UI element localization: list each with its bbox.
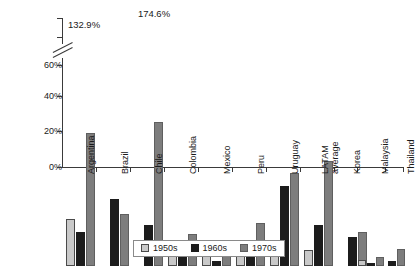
y-axis-line: [62, 18, 63, 168]
y-tick-label: 40%: [10, 92, 62, 101]
y-tick-label: 0%: [10, 163, 62, 172]
legend-swatch-icon-1950s: [141, 244, 149, 252]
legend-label-1960s: 1960s: [203, 243, 228, 253]
y-tick-label: 20%: [10, 127, 62, 136]
x-label-argentina: Argentina: [86, 118, 96, 174]
x-label-latam-average: LATAM average: [320, 118, 340, 174]
bar-argentina-1960s: [76, 232, 85, 266]
bar-korea-1960s: [348, 237, 357, 266]
x-label-korea: Korea: [352, 118, 362, 174]
x-label-uruguay: Uruguay: [290, 118, 300, 174]
bar-argentina-1950s: [66, 219, 75, 266]
bar-uruguay-1970s: [290, 173, 299, 266]
bar-thailand-1960s: [388, 261, 396, 266]
x-label-peru: Peru: [256, 118, 266, 174]
annotation-argentina-1970s: 132.9%: [56, 20, 112, 30]
bar-latam-average-1950s: [304, 250, 313, 266]
legend-swatch-icon-1960s: [191, 244, 199, 252]
bar-latam-average-1960s: [314, 225, 323, 266]
x-label-malaysia: Malaysia: [380, 118, 390, 174]
bar-mexico-1960s: [212, 261, 221, 266]
bar-malaysia-1970s: [376, 257, 384, 266]
x-label-chile: Chile: [154, 118, 164, 174]
legend-label-1970s: 1970s: [252, 243, 277, 253]
legend-label-1950s: 1950s: [153, 243, 178, 253]
bar-brazil-1960s: [110, 199, 119, 266]
y-tick-label: 60%: [10, 61, 62, 70]
x-label-mexico: Mexico: [222, 118, 232, 174]
x-label-brazil: Brazil: [120, 118, 130, 174]
x-label-colombia: Colombia: [188, 118, 198, 174]
bar-latam-average-1970s: [324, 161, 333, 266]
legend-swatch-icon-1970s: [240, 244, 248, 252]
bar-chart: 60% 40% 20% 0% 132.9%: [0, 0, 420, 266]
axis-break-icon: [53, 40, 73, 56]
bar-thailand-1970s: [397, 249, 405, 266]
bar-malaysia-1950s: [358, 260, 366, 266]
legend-item-1970s: 1970s: [240, 243, 277, 253]
bar-brazil-1970s: [120, 214, 129, 266]
legend-item-1950s: 1950s: [141, 243, 178, 253]
legend-item-1960s: 1960s: [191, 243, 228, 253]
annotation-chile-1970s: 174.6%: [126, 9, 182, 19]
chart-legend: 1950s 1960s 1970s: [133, 240, 285, 257]
x-label-thailand: Thailand: [406, 118, 416, 174]
